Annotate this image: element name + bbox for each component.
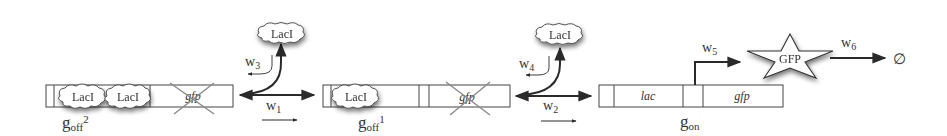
empty-set-sink: ∅ [893,51,906,67]
rate-label-w2: w2 [543,98,558,115]
rate-label-w1: w1 [266,98,281,115]
free-laci-cloud-1: LacI [258,23,305,44]
rate-label-w3: w3 [245,54,260,71]
reaction-w3: w3 LacI [245,23,304,95]
laci-label: LacI [271,27,293,41]
gfp-protein-star: GFP [747,34,833,78]
state-g-on: lac gfp gon [599,85,783,132]
release-curve-arrow [245,44,281,94]
reaction-w5: w5 [695,40,740,85]
state-g-off2: LacI LacI gfp goff2 [46,83,233,133]
gfp-gene-label: gfp [734,89,749,103]
rate-label-w6: w6 [841,35,856,52]
reaction-w6: w6 ∅ [830,35,906,67]
rate-label-w5: w5 [702,40,717,57]
state-g-off1: LacI gfp goff1 [323,82,510,133]
state-label: goff1 [358,113,385,133]
free-laci-cloud-2: LacI [536,24,583,45]
gene-regulation-diagram: LacI LacI gfp goff2 w1 w3 LacI [0,0,947,136]
bound-laci-cloud-2: LacI [105,84,151,108]
state-label: goff2 [62,113,89,133]
laci-label: LacI [549,28,571,42]
lac-operator-label: lac [641,89,656,103]
gene-box [599,85,783,107]
bound-laci-cloud: LacI [332,84,379,108]
bound-laci-cloud-1: LacI [59,84,106,108]
reaction-w2: w2 [516,96,591,121]
gfp-protein-label: GFP [779,52,801,66]
rate-label-w4: w4 [519,56,534,73]
laci-label: LacI [345,90,367,104]
laci-label: LacI [117,90,139,104]
laci-label: LacI [72,90,94,104]
reaction-w1: w1 [240,95,314,120]
promoter-arrow [695,62,740,85]
reaction-w4: w4 LacI [519,24,582,96]
state-label: gon [680,112,700,132]
